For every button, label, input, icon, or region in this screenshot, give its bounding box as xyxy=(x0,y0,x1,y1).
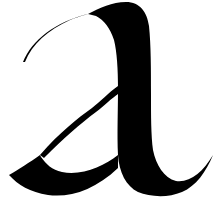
calligraphic-a-glyph xyxy=(0,0,220,210)
glyph-canvas: a xyxy=(0,0,220,210)
diagonal-hairline-stroke xyxy=(40,86,118,158)
top-hairline-stroke xyxy=(23,10,100,62)
lower-bowl-stroke xyxy=(9,155,118,196)
